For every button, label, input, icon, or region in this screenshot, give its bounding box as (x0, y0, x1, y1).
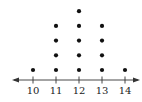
left-arrow-icon (12, 78, 19, 83)
data-dot (100, 24, 104, 28)
data-dot (54, 39, 58, 43)
data-dot (54, 53, 58, 57)
dots-layer (31, 9, 127, 72)
data-dot (54, 24, 58, 28)
data-dot (123, 68, 127, 72)
data-dot (54, 68, 58, 72)
right-arrow-icon (133, 78, 140, 83)
tick-label: 13 (96, 85, 109, 96)
dot-plot: 1011121314 (0, 0, 142, 102)
tick-label: 10 (27, 85, 40, 96)
data-dot (77, 39, 81, 43)
data-dot (100, 68, 104, 72)
data-dot (100, 39, 104, 43)
data-dot (100, 53, 104, 57)
data-dot (77, 9, 81, 13)
data-dot (31, 68, 35, 72)
tick-label: 12 (73, 85, 86, 96)
tick-label: 11 (50, 85, 63, 96)
data-dot (77, 24, 81, 28)
ticks-layer: 1011121314 (27, 77, 132, 97)
data-dot (77, 53, 81, 57)
number-line (12, 78, 140, 83)
data-dot (77, 68, 81, 72)
tick-label: 14 (119, 85, 132, 96)
